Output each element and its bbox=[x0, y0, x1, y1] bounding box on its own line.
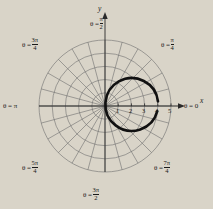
fraction-numerator: π bbox=[171, 37, 174, 44]
fraction-denominator: 4 bbox=[171, 44, 174, 52]
radial-tick-label-5: 5 bbox=[168, 108, 171, 115]
grid-spoke-150 bbox=[48, 73, 105, 106]
theta-eq-prefix: θ = bbox=[22, 164, 31, 172]
y-axis-label: y bbox=[98, 5, 101, 13]
grid-spoke-240 bbox=[72, 106, 105, 163]
fraction-7pi-over-4: 7π4 bbox=[164, 160, 171, 175]
grid-spoke-300 bbox=[105, 106, 138, 163]
grid-spoke-15 bbox=[105, 89, 169, 106]
polar-plot-canvas bbox=[0, 0, 213, 209]
grid-spoke-345 bbox=[105, 106, 169, 123]
polar-plot-figure: y x θ = π θ = 0 θ =π2 θ =π4 θ =3π4 θ =5π… bbox=[0, 0, 213, 209]
theta-eq-prefix: θ = bbox=[161, 41, 170, 49]
radial-tick-label-2: 2 bbox=[129, 108, 132, 115]
fraction-pi-over-4: π4 bbox=[171, 37, 174, 52]
grid-spoke-120 bbox=[72, 49, 105, 106]
grid-spoke-225 bbox=[58, 106, 105, 153]
fraction-pi-over-2: π2 bbox=[100, 16, 103, 31]
fraction-denominator: 2 bbox=[93, 194, 100, 202]
theta-eq-prefix: θ = bbox=[22, 41, 31, 49]
theta-eq-prefix: θ = bbox=[154, 164, 163, 172]
fraction-3pi-over-4: 3π4 bbox=[32, 37, 39, 52]
radial-tick-label-1: 1 bbox=[116, 108, 119, 115]
fraction-denominator: 4 bbox=[164, 167, 171, 175]
grid-spoke-135 bbox=[58, 59, 105, 106]
fraction-3pi-over-2: 3π2 bbox=[93, 187, 100, 202]
grid-spoke-105 bbox=[88, 42, 105, 106]
fraction-denominator: 2 bbox=[100, 23, 103, 31]
radial-tick-label-3: 3 bbox=[142, 108, 145, 115]
angle-label-theta-7pi-over-4: θ =7π4 bbox=[154, 160, 171, 175]
angle-label-theta-0: θ = 0 bbox=[184, 103, 198, 110]
theta-eq-prefix: θ = bbox=[83, 191, 92, 199]
angle-label-theta-3pi-over-4: θ =3π4 bbox=[22, 37, 39, 52]
angle-label-theta-3pi-over-2: θ =3π2 bbox=[83, 187, 100, 202]
fraction-denominator: 4 bbox=[32, 167, 39, 175]
grid-spoke-255 bbox=[88, 106, 105, 170]
fraction-numerator: π bbox=[100, 16, 103, 23]
grid-spoke-210 bbox=[48, 106, 105, 139]
angle-label-theta-pi-over-2: θ =π2 bbox=[90, 16, 103, 31]
grid-spoke-165 bbox=[41, 89, 105, 106]
fraction-numerator: 7π bbox=[164, 160, 171, 167]
angle-label-theta-5pi-over-4: θ =5π4 bbox=[22, 160, 39, 175]
angle-label-theta-pi: θ = π bbox=[3, 103, 17, 110]
fraction-denominator: 4 bbox=[32, 44, 39, 52]
x-axis-label: x bbox=[200, 97, 203, 105]
fraction-numerator: 3π bbox=[93, 187, 100, 194]
fraction-numerator: 3π bbox=[32, 37, 39, 44]
radial-tick-label-4: 4 bbox=[155, 108, 158, 115]
grid-spoke-195 bbox=[41, 106, 105, 123]
fraction-5pi-over-4: 5π4 bbox=[32, 160, 39, 175]
fraction-numerator: 5π bbox=[32, 160, 39, 167]
angle-label-theta-pi-over-4: θ =π4 bbox=[161, 37, 174, 52]
theta-eq-prefix: θ = bbox=[90, 20, 99, 28]
